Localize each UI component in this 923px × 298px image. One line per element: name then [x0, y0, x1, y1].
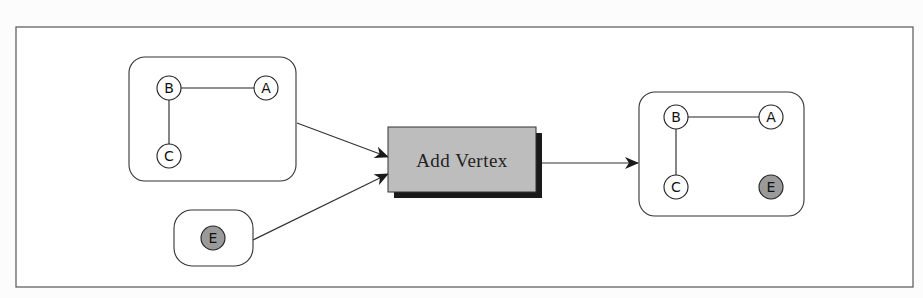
input-graph-container: [129, 57, 296, 181]
vertex-label: E: [209, 230, 218, 246]
vertex-label: C: [164, 148, 174, 164]
add-vertex-diagram: B A C E Add Vertex B: [0, 0, 923, 298]
vertex-e: E: [759, 175, 783, 199]
process-add-vertex: Add Vertex: [388, 127, 542, 198]
vertex-label: C: [671, 179, 681, 195]
vertex-a: A: [254, 76, 278, 100]
vertex-c: C: [157, 144, 181, 168]
vertex-a: A: [759, 105, 783, 129]
vertex-b: B: [157, 76, 181, 100]
process-label: Add Vertex: [416, 150, 508, 171]
vertex-e: E: [201, 226, 225, 250]
vertex-label: B: [164, 80, 174, 96]
input-graph-group: B A C: [129, 57, 296, 181]
vertex-label: A: [261, 80, 271, 96]
vertex-label: B: [671, 109, 681, 125]
vertex-label: A: [766, 109, 776, 125]
input-vertex-group: E: [174, 210, 253, 266]
vertex-label: E: [767, 179, 776, 195]
vertex-c: C: [664, 175, 688, 199]
vertex-b: B: [664, 105, 688, 129]
output-graph-group: B A C E: [639, 92, 804, 216]
